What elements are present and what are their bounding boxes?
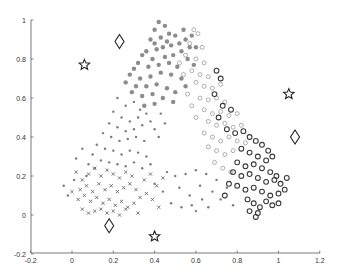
data-point [241,129,246,134]
data-point [83,194,86,197]
data-point [166,171,168,173]
data-point [91,190,94,193]
data-point [129,149,131,151]
data-point [202,108,206,112]
data-point [129,120,131,122]
plot-area: -0.200.20.40.60.81 -0.200.20.40.60.811.2 [14,17,325,265]
data-point [124,165,126,167]
data-point [157,63,161,67]
data-point [184,173,186,175]
data-point [141,124,143,126]
data-point [148,74,152,78]
data-point [188,41,192,45]
data-point [155,184,158,187]
data-point [103,188,106,191]
data-point [233,131,238,136]
data-point [136,61,140,65]
data-point [258,205,263,210]
data-point [231,149,235,153]
data-point [189,194,191,196]
data-point [158,136,160,138]
data-point [163,55,167,59]
data-point [136,211,139,214]
data-point [170,202,172,204]
data-point [118,176,121,179]
data-point [157,206,160,209]
data-points [63,20,300,241]
data-point [184,53,188,57]
data-point [198,96,202,100]
data-point [173,33,177,37]
y-tick-label: 1 [22,17,26,24]
data-point [162,190,164,192]
data-point [284,176,289,181]
data-point [235,139,239,143]
x-tick-label: 1.2 [315,257,325,264]
data-point [116,163,118,165]
y-tick-label: 0.2 [16,173,26,180]
x-tick-label: 1 [277,257,281,264]
data-point [175,65,179,69]
data-point [143,140,145,142]
diamond-marker [291,130,300,144]
series-cluster-bottom-x [70,167,164,217]
data-point [150,57,154,61]
data-point [135,136,137,138]
data-point [191,204,193,206]
data-point [87,163,89,165]
data-point [245,197,250,202]
data-point [112,172,115,175]
data-point [122,186,125,189]
data-point [235,112,239,116]
data-point [224,127,229,132]
data-point [171,100,175,104]
data-point [264,199,269,204]
data-point [195,210,197,212]
data-point [133,101,135,103]
data-point [174,175,176,177]
data-point [177,61,181,65]
data-point [124,171,127,174]
series-cluster-right-light-circles [177,28,247,174]
y-tick-label: 0.8 [16,56,26,63]
data-point [132,202,135,205]
data-point [202,61,206,65]
data-point [150,92,154,96]
x-tick-label: 0.2 [108,257,118,264]
data-point [108,161,110,163]
data-point [210,112,214,116]
data-point [118,213,121,216]
data-point [143,178,146,181]
data-point [243,187,248,192]
data-point [118,140,120,142]
y-ticks: -0.200.20.40.60.81 [14,17,34,258]
data-point [99,174,102,177]
data-point [247,150,252,155]
data-point [255,176,260,181]
data-point [278,181,283,186]
data-point [194,80,198,84]
data-point [260,166,265,171]
data-point [239,146,244,151]
x-tick-label: -0.2 [25,257,37,264]
data-point [222,193,227,198]
data-point [124,208,127,211]
data-point [226,187,228,189]
data-point [152,41,156,45]
data-point [179,49,183,53]
data-point [190,104,194,108]
data-point [210,135,214,139]
data-point [146,65,150,69]
x-tick-label: 0.4 [150,257,160,264]
data-point [140,53,144,57]
data-point [211,190,213,192]
data-point [141,167,143,169]
data-point [152,28,156,32]
data-point [272,178,277,183]
data-point [221,166,225,170]
data-point [227,114,231,118]
data-point [190,33,194,37]
data-point [227,135,231,139]
data-point [216,115,221,120]
data-point [97,182,100,185]
